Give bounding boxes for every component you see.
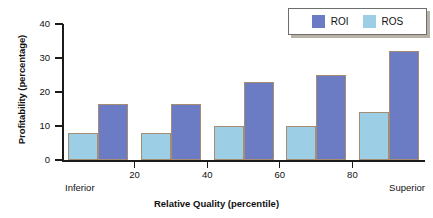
x-tick-label: 40 [192,169,222,180]
y-tick-label: 0 [8,154,50,165]
legend-label-ros: ROS [382,16,404,27]
bar-roi-group-4 [316,75,346,160]
bar-roi-group-2 [171,104,201,160]
y-tick-label: 30 [8,52,50,63]
bar-ros-group-2 [141,133,171,160]
x-axis-right-edge-label: Superior [389,182,425,193]
x-axis-left-edge-label: Inferior [65,182,95,193]
x-tick-mark [352,161,353,168]
chart-container: Profitability (percentage) 010203040 204… [0,0,433,218]
x-tick-label: 80 [337,169,367,180]
y-axis-line [62,24,64,161]
legend-item-ros: ROS [363,15,404,28]
bar-ros-group-1 [68,133,98,160]
bar-roi-group-1 [98,104,128,160]
x-tick-mark [279,161,280,168]
y-tick-label: 20 [8,86,50,97]
legend-item-roi: ROI [312,15,349,28]
x-tick-label: 20 [120,169,150,180]
y-tick-label: 40 [8,18,50,29]
legend-swatch-roi-icon [312,15,325,28]
x-tick-label: 60 [265,169,295,180]
y-tick-label: 10 [8,120,50,131]
chart-legend: ROI ROS [288,8,427,35]
x-tick-mark [207,161,208,168]
bar-ros-group-3 [214,126,244,160]
x-axis-line [62,160,425,162]
bar-ros-group-4 [286,126,316,160]
bar-roi-group-3 [244,82,274,160]
bar-ros-group-5 [359,112,389,160]
x-tick-mark [134,161,135,168]
x-axis-title: Relative Quality (percentile) [0,198,433,209]
legend-swatch-ros-icon [363,15,376,28]
legend-label-roi: ROI [331,16,349,27]
bar-roi-group-5 [389,51,419,160]
